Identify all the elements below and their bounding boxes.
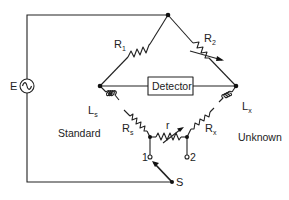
circuit-diagram: E R1 R2 Detector Ls Rs Lx [0,0,289,200]
rx-label: Rx [205,122,217,136]
lx-label: Lx [242,100,252,114]
terminal-1-label: 1 [142,151,148,163]
source-label: E [10,80,17,92]
unknown-label: Unknown [238,131,282,143]
r1-label: R1 [114,38,126,52]
r1-resistor [100,15,168,86]
ac-source-icon [20,79,34,93]
standard-label: Standard [58,127,101,139]
switch-terminals [148,137,189,159]
r2-variable-resistor [168,15,236,86]
r2-label: R2 [204,32,216,46]
detector-label: Detector [152,80,192,92]
switch-label: S [176,176,183,188]
r-label: r [166,119,170,131]
outer-wires [27,15,172,182]
rs-label: Rs [122,122,134,136]
terminal-2-label: 2 [190,151,196,163]
ls-label: Ls [88,104,98,118]
switch-s [152,161,172,182]
lx-inductor [219,86,236,102]
ls-inductor [100,86,119,100]
